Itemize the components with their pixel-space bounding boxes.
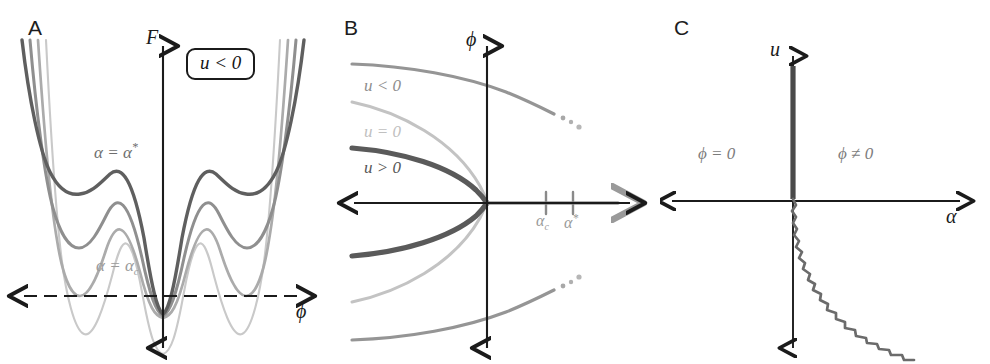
line-first-order-boundary [792, 199, 914, 360]
badge-u-less-than-zero: u < 0 [186, 48, 255, 80]
label-u-less-than-zero: u < 0 [364, 76, 401, 96]
axis-label-phi-b: ϕ [466, 28, 476, 51]
region-label-phi-zero: ϕ = 0 [698, 144, 735, 164]
axis-label-phi: ϕ [296, 300, 306, 323]
panel-c: C [660, 0, 990, 364]
panel-a-plot [0, 0, 330, 364]
tick-alpha-c-sub: c [544, 221, 548, 232]
label-alpha-c: α = αc [96, 256, 139, 277]
tick-label-alpha-star: α* [564, 212, 578, 232]
panel-b: B [330, 0, 660, 364]
panel-a: A [0, 0, 330, 364]
tick-label-alpha-c: αc [536, 212, 549, 232]
label-alpha-c-base: α = α [96, 256, 134, 275]
axis-label-F: F [146, 26, 158, 49]
label-alpha-star: α = α* [94, 140, 138, 163]
panel-b-plot [330, 0, 660, 364]
region-label-phi-nonzero: ϕ ≠ 0 [838, 144, 873, 164]
label-alpha-star-sup: * [132, 140, 138, 154]
panel-c-plot [660, 0, 990, 364]
figure-root: A [0, 0, 990, 364]
label-u-equals-zero: u = 0 [364, 122, 401, 142]
label-alpha-star-base: α = α [94, 143, 132, 162]
axis-label-u-c: u [770, 38, 780, 61]
axis-label-alpha-c: α [946, 205, 957, 228]
tick-alpha-star-sup: * [572, 212, 578, 224]
badge-text: u < 0 [200, 52, 241, 73]
label-alpha-c-sub: c [134, 266, 139, 277]
label-u-greater-than-zero: u > 0 [364, 158, 401, 178]
